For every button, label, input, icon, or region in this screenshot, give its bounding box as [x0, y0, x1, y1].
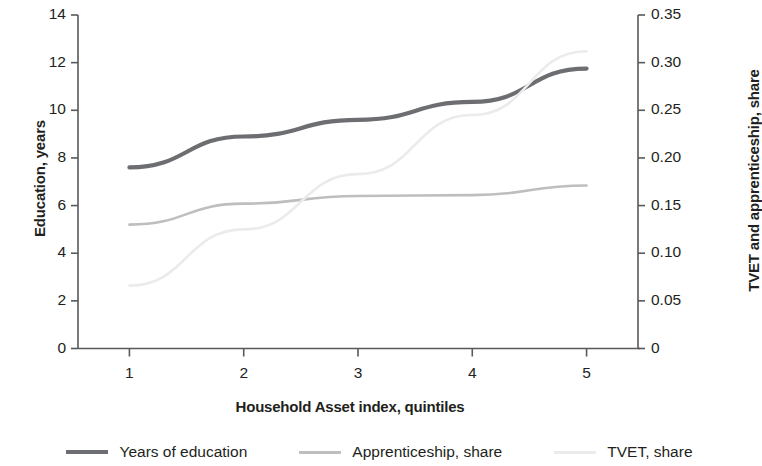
data-series-lines: [129, 51, 586, 285]
x-axis-tick-label: 4: [452, 364, 492, 382]
y-axis-left-tick-label: 4: [20, 243, 66, 261]
y-axis-left-tick-label: 2: [20, 291, 66, 309]
y-axis-right-tick-label: 0.15: [651, 196, 711, 214]
y-axis-right-tick-label: 0.10: [651, 243, 711, 261]
legend-label: TVET, share: [607, 443, 692, 461]
series-line: [129, 186, 586, 225]
y-axis-left-ticks: [71, 15, 78, 349]
x-axis-ticks: [129, 349, 586, 357]
legend-label: Years of education: [119, 443, 247, 461]
x-axis-tick-label: 1: [109, 364, 149, 382]
legend-label: Apprenticeship, share: [352, 443, 502, 461]
legend-item: TVET, share: [554, 443, 692, 461]
x-axis-tick-label: 5: [567, 364, 607, 382]
x-axis-tick-label: 3: [338, 364, 378, 382]
y-axis-left-tick-label: 10: [20, 100, 66, 118]
y-axis-right-tick-label: 0.30: [651, 53, 711, 71]
y-axis-right-tick-label: 0.35: [651, 5, 711, 23]
series-line: [129, 69, 586, 168]
legend-swatch-icon: [299, 451, 341, 454]
y-axis-left-tick-label: 8: [20, 148, 66, 166]
y-axis-right-tick-label: 0.20: [651, 148, 711, 166]
legend-item: Apprenticeship, share: [299, 443, 502, 461]
series-line: [129, 51, 586, 285]
y-axis-left-tick-label: 14: [20, 5, 66, 23]
x-axis-tick-label: 2: [224, 364, 264, 382]
y-axis-right-ticks: [638, 15, 645, 349]
legend-item: Years of education: [66, 443, 247, 461]
chart-legend: Years of educationApprenticeship, shareT…: [0, 438, 759, 466]
legend-swatch-icon: [66, 450, 108, 454]
y-axis-left-tick-label: 6: [20, 196, 66, 214]
legend-swatch-icon: [554, 451, 596, 454]
y-axis-right-tick-label: 0: [651, 339, 711, 357]
y-axis-right-tick-label: 0.25: [651, 100, 711, 118]
y-axis-left-tick-label: 12: [20, 53, 66, 71]
y-axis-right-tick-label: 0.05: [651, 291, 711, 309]
y-axis-left-tick-label: 0: [20, 339, 66, 357]
axis-lines: [78, 15, 640, 349]
